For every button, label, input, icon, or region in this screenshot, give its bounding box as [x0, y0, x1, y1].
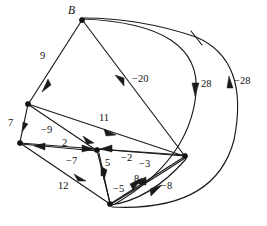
edge-B-C	[29, 20, 82, 103]
edge-label-neg7: −7	[66, 156, 77, 167]
edge-G-B	[83, 21, 184, 155]
graph-figure: B 9 7 −9 11 2 −7 12 5 −2 −3 8 −5 −8 −20 …	[0, 0, 267, 226]
edge-label-11: 11	[99, 113, 109, 124]
node-B[interactable]	[79, 17, 84, 22]
edge-label-neg2: −2	[121, 153, 132, 164]
edge-label-7: 7	[8, 118, 13, 129]
node-G[interactable]	[182, 153, 187, 158]
node-label-B: B	[68, 5, 75, 17]
edge-C-D	[20, 104, 28, 142]
edge-label-neg8: −8	[161, 181, 172, 192]
node-D[interactable]	[17, 140, 22, 145]
edge-label-neg20: −20	[132, 74, 148, 85]
graph-canvas	[0, 0, 267, 226]
node-C[interactable]	[25, 101, 30, 106]
edge-label-8: 8	[134, 174, 139, 185]
edge-label-5: 5	[105, 158, 110, 169]
edge-label-neg5: −5	[113, 184, 124, 195]
edge-label-2: 2	[62, 138, 67, 149]
edge-label-neg9: −9	[41, 125, 52, 136]
edge-label-9: 9	[40, 51, 45, 62]
node-F[interactable]	[107, 201, 112, 206]
node-E[interactable]	[94, 147, 99, 152]
edge-label-neg3: −3	[139, 159, 150, 170]
edge-label-28: 28	[201, 79, 212, 90]
edge-label-12: 12	[58, 181, 69, 192]
edge-label-neg28: −28	[234, 76, 250, 87]
